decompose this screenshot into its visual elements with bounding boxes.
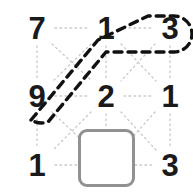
- selected-path-outline: [0, 0, 193, 195]
- puzzle-board: 71392113: [0, 0, 193, 195]
- selected-path-shape: [31, 16, 192, 123]
